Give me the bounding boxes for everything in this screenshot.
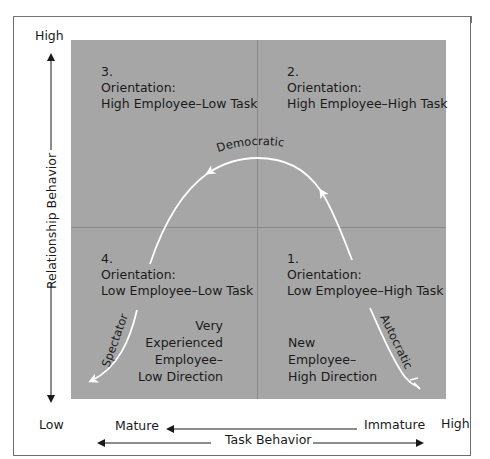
diagram-overlay: Democratic Autocratic Spectator <box>0 0 490 459</box>
democratic-label: Democratic <box>215 134 286 155</box>
leadership-curve <box>91 158 420 389</box>
right-rising-segment <box>321 191 352 260</box>
democratic-curve-segment <box>208 158 321 191</box>
spectator-label: Spectator <box>99 312 131 370</box>
left-falling-segment <box>150 173 208 264</box>
